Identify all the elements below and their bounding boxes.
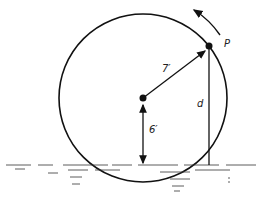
point-label: P bbox=[224, 38, 230, 49]
radius-label: 7′ bbox=[162, 63, 171, 74]
point-p-dot bbox=[206, 43, 213, 50]
distance-label: d bbox=[197, 98, 203, 109]
center-dot bbox=[140, 95, 147, 102]
rotation-arrow-icon bbox=[194, 10, 220, 35]
radius-arrow bbox=[143, 51, 205, 98]
water-surface bbox=[6, 165, 256, 191]
height-label: 6′ bbox=[149, 124, 158, 135]
ferris-wheel-diagram bbox=[0, 0, 265, 198]
